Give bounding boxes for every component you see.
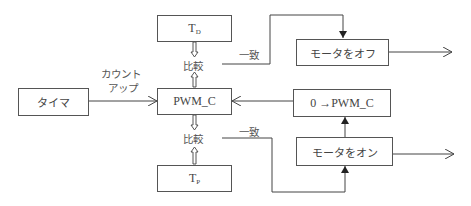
tp-to-compare-arrow bbox=[191, 147, 198, 164]
pwm-to-lower-compare-arrow bbox=[191, 115, 198, 130]
match-lower-label: 一致 bbox=[239, 124, 259, 139]
tp-label: TP bbox=[189, 171, 200, 186]
compare-lower-label: 比較 bbox=[183, 131, 203, 146]
td-to-compare-arrow bbox=[191, 42, 198, 57]
motor-on-box: モータをオン bbox=[296, 137, 393, 166]
reset-pwm-label: 0 →PWM_C bbox=[310, 96, 374, 111]
motor-off-box: モータをオフ bbox=[296, 39, 389, 66]
reset-pwm-box: 0 →PWM_C bbox=[293, 89, 391, 117]
pwm-c-label: PWM_C bbox=[173, 94, 216, 109]
count-up-label-line2: アップ bbox=[108, 80, 138, 95]
compare-upper-label: 比較 bbox=[183, 58, 203, 73]
timer-box: タイマ bbox=[18, 88, 89, 116]
td-label: TD bbox=[188, 21, 200, 36]
td-box: TD bbox=[157, 15, 232, 42]
motor-on-label: モータをオン bbox=[312, 144, 378, 160]
timer-label: タイマ bbox=[37, 94, 70, 110]
tp-box: TP bbox=[157, 165, 232, 192]
match-upper-label: 一致 bbox=[239, 47, 259, 62]
count-up-label-line1: カウント bbox=[101, 66, 141, 81]
motor-off-label: モータをオフ bbox=[310, 45, 376, 61]
pwm-to-upper-compare-arrow bbox=[191, 72, 198, 87]
pwm-c-box: PWM_C bbox=[157, 88, 232, 115]
